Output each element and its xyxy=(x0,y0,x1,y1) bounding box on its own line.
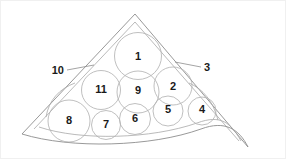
callout-label-10: 10 xyxy=(52,64,64,76)
structure-label-2: 2 xyxy=(170,80,176,92)
structure-label-11: 11 xyxy=(95,83,107,95)
callout-label-3: 3 xyxy=(204,61,210,73)
figure-container: 1119287654 103 xyxy=(0,0,286,159)
structure-label-7: 7 xyxy=(103,118,109,130)
structure-label-6: 6 xyxy=(132,112,138,124)
structure-label-5: 5 xyxy=(165,103,171,115)
structure-label-4: 4 xyxy=(199,103,206,115)
structure-label-8: 8 xyxy=(66,114,72,126)
structure-label-9: 9 xyxy=(135,84,141,96)
cross-section-diagram: 1119287654 103 xyxy=(1,1,286,159)
structure-label-1: 1 xyxy=(135,50,141,62)
